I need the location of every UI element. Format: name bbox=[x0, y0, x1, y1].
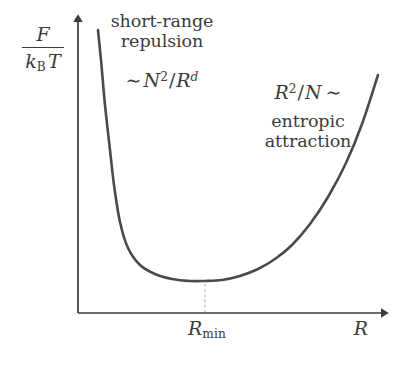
formula-N-exponent-left: 2 bbox=[160, 70, 168, 84]
rmin-tick-label: Rmin bbox=[172, 318, 242, 342]
y-axis-label-numerator: F bbox=[22, 24, 63, 46]
tilde-symbol-left: ∼ bbox=[126, 69, 142, 91]
fraction-bar bbox=[22, 47, 63, 48]
formula-slash-left: / bbox=[169, 69, 175, 91]
formula-R-exponent-left: d bbox=[191, 70, 199, 84]
formula-N-right: N bbox=[305, 81, 322, 103]
entropic-attraction-line-2: attraction bbox=[240, 132, 376, 152]
formula-R-right: R bbox=[275, 81, 289, 103]
formula-slash-right: / bbox=[298, 81, 304, 103]
x-axis-label-text: R bbox=[354, 317, 368, 339]
formula-R-left: R bbox=[176, 69, 190, 91]
short-range-repulsion-line-1: short-range bbox=[96, 12, 228, 32]
y-axis-label-denominator: kBT bbox=[22, 50, 63, 75]
entropic-attraction-annotation: entropic attraction bbox=[240, 112, 376, 151]
x-axis-label: R bbox=[346, 318, 376, 339]
small-r-scaling-formula: ∼N2/Rd bbox=[94, 70, 230, 91]
short-range-repulsion-annotation: short-range repulsion bbox=[96, 12, 228, 51]
large-r-scaling-formula: R2/N∼ bbox=[246, 82, 370, 103]
formula-N-left: N bbox=[144, 69, 161, 91]
entropic-attraction-line-1: entropic bbox=[240, 112, 376, 132]
y-axis-label: F kBT bbox=[14, 24, 72, 75]
formula-R-exponent-right: 2 bbox=[289, 82, 297, 96]
rmin-subscript: min bbox=[202, 327, 226, 341]
free-energy-curve bbox=[98, 30, 378, 281]
free-energy-figure: F kBT short-range repulsion ∼N2/Rd R2/N∼… bbox=[0, 0, 405, 366]
short-range-repulsion-line-2: repulsion bbox=[96, 32, 228, 52]
rmin-base: R bbox=[188, 317, 202, 339]
tilde-symbol-right: ∼ bbox=[326, 81, 342, 103]
